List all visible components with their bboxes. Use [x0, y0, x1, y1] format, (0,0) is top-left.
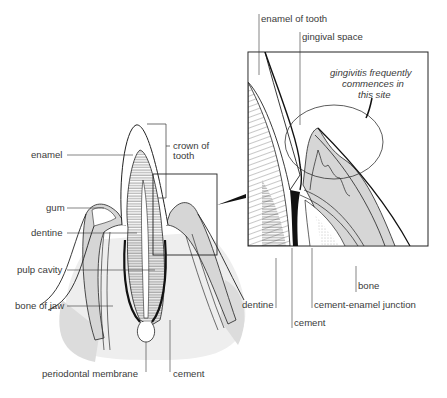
label-enamel: enamel	[31, 149, 62, 160]
label-dentine-inset: dentine	[242, 299, 273, 310]
note-line-1: gingivitis frequently	[330, 67, 413, 78]
label-bone-of-jaw: bone of jaw	[15, 300, 64, 311]
label-bone: bone	[358, 280, 379, 291]
label-gum: gum	[46, 202, 65, 213]
inset-connector	[217, 194, 246, 205]
label-cement-inset: cement	[294, 317, 326, 328]
label-dentine: dentine	[31, 227, 62, 238]
label-cement-left: cement	[173, 368, 205, 379]
label-gingival-space: gingival space	[302, 31, 363, 42]
tooth-anatomy-diagram: enamel crown of tooth gum dentine pulp c…	[0, 0, 447, 398]
label-crown-2: tooth	[173, 150, 194, 161]
label-enamel-of-tooth: enamel of tooth	[261, 13, 327, 24]
note-line-2: commences in	[342, 78, 404, 89]
label-periodontal-membrane: periodontal membrane	[42, 368, 138, 379]
label-pulp-cavity: pulp cavity	[17, 264, 63, 275]
tooth-cross-section	[40, 125, 245, 372]
label-cement-enamel-junction: cement-enamel junction	[314, 299, 416, 310]
note-line-3: this site	[358, 89, 391, 100]
